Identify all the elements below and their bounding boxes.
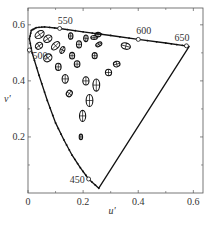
macadam-ellipse (105, 69, 111, 76)
locus-dot (29, 43, 31, 45)
macadam-ellipse (86, 94, 93, 106)
locus-dot (98, 187, 100, 189)
macadam-ellipse (83, 35, 88, 42)
macadam-ellipse (70, 52, 75, 59)
locus-dot (28, 38, 30, 40)
locus-dot (176, 44, 178, 46)
y-tick-label: 0.4 (13, 75, 26, 86)
locus-dot (35, 27, 37, 29)
locus-dot (71, 154, 73, 156)
locus-dot (95, 184, 97, 186)
y-axis-title: v' (4, 93, 11, 104)
locus-dot (79, 167, 81, 169)
locus-dot (30, 30, 32, 32)
macadam-ellipse (113, 61, 121, 68)
wavelength-label-600: 600 (136, 25, 151, 36)
chromaticity-chart: 00.20.40.60.20.40.6 450500550600650 u' v… (0, 0, 210, 226)
wavelength-label-550: 550 (58, 15, 73, 26)
macadam-ellipse (55, 63, 61, 70)
macadam-ellipse (83, 77, 89, 85)
macadam-ellipse (79, 134, 82, 140)
macadam-ellipses (34, 29, 132, 140)
locus-dot (110, 35, 112, 37)
locus-dot (165, 42, 167, 44)
locus-dot (170, 43, 172, 45)
wavelength-marker-650 (184, 44, 188, 48)
locus-curve (29, 27, 189, 188)
locus-dot (77, 163, 79, 165)
locus-dot (60, 133, 62, 135)
locus-dot (34, 28, 36, 30)
locus-dot (36, 67, 38, 69)
locus-dot (29, 35, 31, 37)
locus-dot (181, 44, 183, 46)
y-tick-label: 0.6 (13, 19, 26, 30)
locus-dot (41, 83, 43, 85)
locus-dot (44, 26, 46, 28)
macadam-ellipse (65, 89, 73, 98)
locus-dot (49, 26, 51, 28)
locus-dot (32, 29, 34, 31)
macadam-ellipse (59, 46, 66, 54)
macadam-ellipse (76, 41, 81, 48)
locus-dot (82, 31, 84, 33)
locus-dot (82, 171, 84, 173)
locus-dot (30, 32, 32, 34)
locus-dot (38, 74, 40, 76)
locus-dot (74, 158, 76, 160)
macadam-ellipse (68, 33, 72, 40)
wavelength-markers: 450500550600650 (27, 15, 189, 185)
x-tick-label: 0.6 (187, 196, 200, 207)
wavelength-label-450: 450 (70, 174, 85, 185)
macadam-ellipse (62, 74, 68, 83)
x-tick-label: 0.2 (77, 196, 90, 207)
locus-dot (128, 37, 130, 39)
locus-dot (55, 122, 57, 124)
macadam-ellipse (74, 61, 80, 68)
wavelength-marker-550 (58, 26, 62, 30)
locus-dot (147, 40, 149, 42)
macadam-ellipse (92, 53, 97, 59)
locus-dot (38, 26, 40, 28)
locus-dot (91, 181, 93, 183)
macadam-ellipse (95, 41, 103, 48)
macadam-ellipse (120, 42, 131, 50)
macadam-ellipse (93, 79, 100, 91)
wavelength-marker-450 (87, 177, 91, 181)
locus-dot (67, 29, 69, 31)
x-tick-label: 0.4 (132, 196, 145, 207)
locus-dot (66, 144, 68, 146)
locus-dot (156, 41, 158, 43)
spectral-locus (28, 26, 189, 189)
locus-dot (91, 32, 93, 34)
locus-dot (57, 128, 59, 130)
x-tick-label: 0 (26, 196, 31, 207)
wavelength-marker-600 (136, 37, 140, 41)
locus-dot (41, 26, 43, 28)
y-tick-label: 0.2 (13, 131, 26, 142)
locus-dot (54, 27, 56, 29)
locus-dot (63, 139, 65, 141)
wavelength-label-500: 500 (32, 50, 47, 61)
x-axis-title: u' (108, 205, 116, 216)
wavelength-label-650: 650 (174, 32, 189, 43)
locus-dot (46, 100, 48, 102)
locus-dot (119, 36, 121, 38)
locus-dot (49, 107, 51, 109)
locus-dot (44, 91, 46, 93)
macadam-ellipse (91, 35, 98, 39)
locus-dot (74, 30, 76, 32)
locus-dot (68, 149, 70, 151)
locus-dot (52, 115, 54, 117)
wavelength-marker-500 (27, 48, 31, 52)
locus-dot (85, 174, 87, 176)
macadam-ellipse (80, 110, 86, 121)
